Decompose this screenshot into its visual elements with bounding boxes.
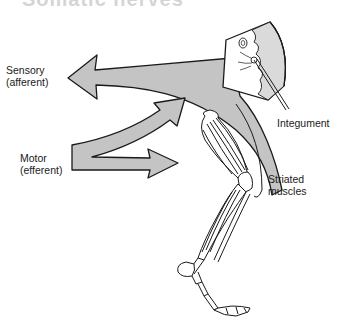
label-striated-line1: Striated xyxy=(268,173,307,185)
label-striated-line2: muscles xyxy=(268,185,307,197)
label-motor-line1: Motor xyxy=(20,152,62,164)
label-integument-line1: Integument xyxy=(277,117,330,129)
label-sensory-line2: (afferent) xyxy=(6,76,48,88)
label-integument: Integument xyxy=(277,117,330,129)
label-sensory: Sensory (afferent) xyxy=(6,64,48,88)
motor-arrows-icon xyxy=(72,98,185,178)
label-striated-muscles: Striated muscles xyxy=(268,173,307,197)
label-sensory-line1: Sensory xyxy=(6,64,48,76)
label-motor-line2: (efferent) xyxy=(20,164,62,176)
label-motor: Motor (efferent) xyxy=(20,152,62,176)
